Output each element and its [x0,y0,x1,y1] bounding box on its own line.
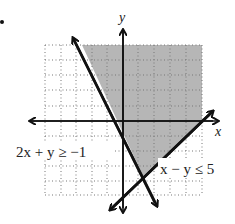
inequality-label-1: 2x + y ≥ −1 [16,144,86,160]
bullet-icon [0,20,4,24]
x-axis-label: x [214,124,222,139]
inequality-label-2: x − y ≤ 5 [160,161,214,177]
inequality-graph: x y 2x + y ≥ −1 x − y ≤ 5 [0,0,235,224]
y-axis-label: y [117,10,126,25]
